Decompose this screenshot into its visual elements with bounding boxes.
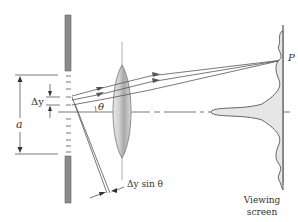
arrow-up-icon	[18, 76, 23, 82]
intensity-pattern	[211, 30, 283, 190]
slit-width-dimension	[15, 75, 58, 154]
barrier-top	[65, 15, 71, 71]
arrow-up-icon	[48, 106, 52, 112]
screen-label-line2: screen	[247, 207, 278, 217]
arrow-right-icon	[96, 87, 104, 91]
arrow-down-icon	[48, 91, 52, 97]
theta-label: θ	[98, 101, 104, 112]
diffraction-diagram: a Δy θ	[0, 0, 298, 222]
arrow-left-icon	[111, 188, 117, 193]
slit-width-label: a	[16, 118, 23, 131]
slit-source-dashes	[66, 76, 71, 152]
theta-arc	[95, 106, 96, 112]
arrow-right-icon	[96, 92, 104, 97]
rays	[72, 60, 283, 105]
slit-barrier	[65, 15, 71, 203]
arrow-right-icon	[99, 192, 106, 196]
delta-y-dimension	[46, 84, 60, 118]
arrow-down-icon	[18, 147, 23, 153]
point-p-label: P	[287, 52, 295, 63]
screen-label-line1: Viewing	[243, 195, 281, 205]
delta-y-label: Δy	[31, 96, 44, 107]
path-difference-label: Δy sin θ	[127, 179, 163, 189]
arrow-right-icon	[152, 72, 160, 77]
arrow-right-icon	[152, 78, 160, 83]
converging-lens	[113, 42, 131, 180]
barrier-bottom	[65, 156, 71, 203]
